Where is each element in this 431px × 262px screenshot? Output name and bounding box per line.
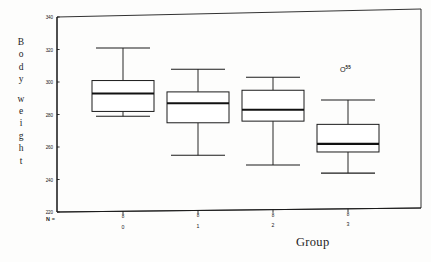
group-n-count: 8	[188, 213, 208, 218]
x-axis-tick-label: 3	[338, 221, 358, 227]
x-axis-line	[57, 208, 421, 212]
y-axis-tick-label: 220	[37, 210, 53, 215]
iqr-box	[317, 124, 379, 152]
box-series	[92, 48, 379, 214]
y-axis-tick-label: 240	[37, 177, 53, 182]
y-axis-tick-label: 280	[37, 112, 53, 117]
boxplot-figure: Bodyweight Group N = O55 220240260280300…	[0, 0, 431, 262]
boxplot-box	[92, 48, 154, 116]
x-axis-tick-label: 1	[188, 223, 208, 229]
plot-canvas	[0, 0, 431, 262]
boxplot-box	[242, 77, 304, 165]
iqr-box	[242, 90, 304, 121]
boxplot-box	[167, 69, 229, 155]
iqr-box	[92, 81, 154, 112]
group-n-count: 8	[338, 212, 358, 217]
boxplot-box	[317, 100, 379, 173]
y-axis-tick-label: 300	[37, 80, 53, 85]
x-axis-tick-label: 2	[263, 222, 283, 228]
y-axis-tick-label: 340	[37, 15, 53, 20]
y-axis-tick-label: 320	[37, 47, 53, 52]
group-n-count: 8	[113, 214, 133, 219]
group-n-count: 8	[263, 213, 283, 218]
iqr-box	[167, 92, 229, 123]
y-axis-tick-label: 260	[37, 145, 53, 150]
x-axis-tick-label: 0	[113, 224, 133, 230]
